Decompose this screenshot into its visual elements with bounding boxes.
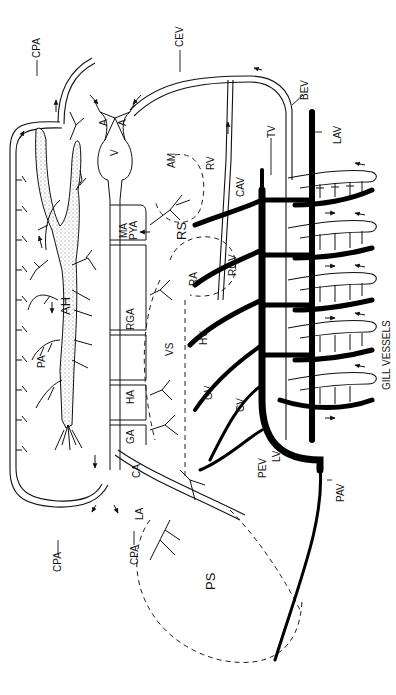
label-lav: LAV [332,126,343,144]
label-cpa-top: CPA [31,38,42,58]
label-pev: PEV [257,458,268,478]
label-lv: LV [271,450,282,462]
arterial-trees [150,195,205,560]
label-atrium-2: A [117,119,128,126]
label-cv: CV [235,398,246,412]
label-ventricle: V [109,149,120,156]
label-pa: PA [36,355,47,368]
label-cpa-bottom-left: CPA [52,552,63,572]
label-ah: AH [58,297,73,315]
label-ga: GA [125,429,136,444]
dashed-outlines [137,154,302,662]
label-ha: HA [125,390,136,404]
label-am: AM [166,153,177,168]
label-rv: RV [205,156,216,170]
label-ca: CA [131,464,142,478]
label-cev: CEV [174,26,185,47]
label-rs: RS [174,222,189,240]
label-ps: PS [203,572,218,590]
label-ra: RA [188,272,199,286]
label-atrium-1: A [98,119,109,126]
label-tv: TV [266,125,277,138]
label-hv: HV [198,331,209,345]
label-cav: CAV [235,177,246,197]
vascular-diagram: CPA CEV BEV LAV TV RV CAV A A V AM MA PY… [0,0,396,695]
label-gill-vessels: GILL VESSELS [381,320,392,390]
label-cpa-bottom-mid: CPA [129,545,140,565]
label-rga: RGA [125,308,136,330]
label-pav: PAV [335,483,346,502]
label-la: LA [134,507,145,520]
ah-organ [28,112,96,468]
label-gv: GV [203,385,214,400]
label-pya: PYA [128,220,139,240]
label-rgv: RGV [227,254,238,276]
label-vs: VS [164,342,175,356]
label-bev: BEV [299,80,310,100]
